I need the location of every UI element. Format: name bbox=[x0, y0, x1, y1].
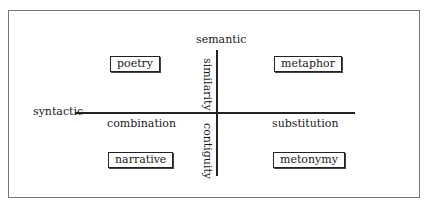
semantic-label: semantic bbox=[196, 34, 246, 46]
substitution-label: substitution bbox=[272, 118, 339, 130]
similarity-label: similarity bbox=[201, 58, 213, 111]
combination-label: combination bbox=[107, 118, 176, 130]
metonymy-box: metonymy bbox=[273, 152, 345, 168]
metaphor-box: metaphor bbox=[274, 56, 342, 72]
poetry-box: poetry bbox=[110, 56, 160, 72]
narrative-box: narrative bbox=[108, 152, 173, 168]
contiguity-label: contiguity bbox=[201, 123, 213, 179]
horizontal-axis bbox=[75, 112, 355, 114]
syntactic-label: syntactic bbox=[33, 106, 83, 118]
